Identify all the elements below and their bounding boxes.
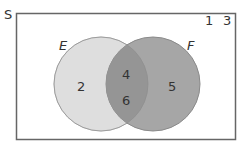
universe-label: S (4, 7, 12, 22)
e-only-element: 2 (77, 79, 85, 94)
intersection-element-6: 6 (122, 93, 130, 108)
f-only-element: 5 (168, 79, 176, 94)
intersection-element-4: 4 (122, 67, 130, 82)
set-e-label: E (59, 38, 68, 53)
outside-element-1: 1 (205, 13, 213, 28)
set-f-label: F (187, 38, 195, 53)
venn-diagram: S E F 1 3 2 5 4 6 (0, 0, 248, 153)
outside-element-3: 3 (223, 13, 231, 28)
